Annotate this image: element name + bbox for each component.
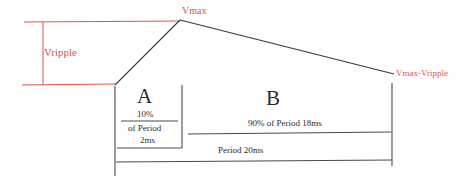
waveform-falling-edge bbox=[180, 20, 394, 74]
vmin-reference-line bbox=[22, 84, 115, 85]
period-label: Period 20ms bbox=[218, 146, 263, 155]
section-b-label: B bbox=[266, 88, 280, 109]
section-b-dimension-line bbox=[188, 132, 391, 134]
vripple-label: Vripple bbox=[44, 47, 77, 58]
section-a-of-period-label: of Period bbox=[128, 124, 161, 133]
section-b-duty-label: 90% of Period 18ms bbox=[248, 119, 322, 128]
section-a-label: A bbox=[137, 86, 152, 107]
waveform-rising-edge bbox=[115, 20, 180, 85]
section-a-percent-label: 10% bbox=[137, 110, 154, 119]
ripple-waveform-diagram: Vmax Vripple Vmax-Vripple A B 10% of Per… bbox=[0, 0, 470, 183]
vmax-minus-vripple-label: Vmax-Vripple bbox=[396, 69, 448, 78]
section-a-duration-label: 2ms bbox=[140, 136, 155, 145]
vmax-reference-line bbox=[24, 21, 180, 22]
diagram-canvas bbox=[0, 0, 470, 183]
period-dimension-line bbox=[116, 160, 392, 162]
vmax-label: Vmax bbox=[182, 6, 206, 16]
